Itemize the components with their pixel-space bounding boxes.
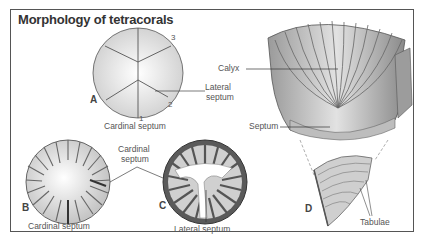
septum-number-3: 3 <box>171 33 175 42</box>
figure-a-letter: A <box>90 94 97 105</box>
figure-c-letter: C <box>159 200 166 211</box>
cardinal-septum-label-c-2: septum <box>121 155 149 164</box>
figure-d-letter: D <box>305 203 312 214</box>
lateral-septum-label-a-2: septum <box>206 93 234 102</box>
lateral-septum-label-a: Lateral <box>205 83 231 92</box>
calyx-label: Calyx <box>218 64 239 73</box>
septum-number-2: 2 <box>168 100 172 109</box>
figure-b-letter: B <box>22 202 29 213</box>
cardinal-septum-label-a: Cardinal septum <box>104 122 166 131</box>
diagram-artwork <box>0 0 425 240</box>
figure-a-cross-section <box>93 28 205 118</box>
diagram-title: Morphology of tetracorals <box>18 12 173 27</box>
cardinal-septum-label-b: Cardinal septum <box>28 222 90 231</box>
figure-c-cross-section <box>163 140 247 224</box>
lateral-septum-label-c: Lateral septum <box>174 225 230 234</box>
tabulae-label: Tabulae <box>360 218 390 227</box>
septum-label-d: Septum <box>249 122 278 131</box>
cardinal-septum-label-c: Cardinal <box>118 145 150 154</box>
